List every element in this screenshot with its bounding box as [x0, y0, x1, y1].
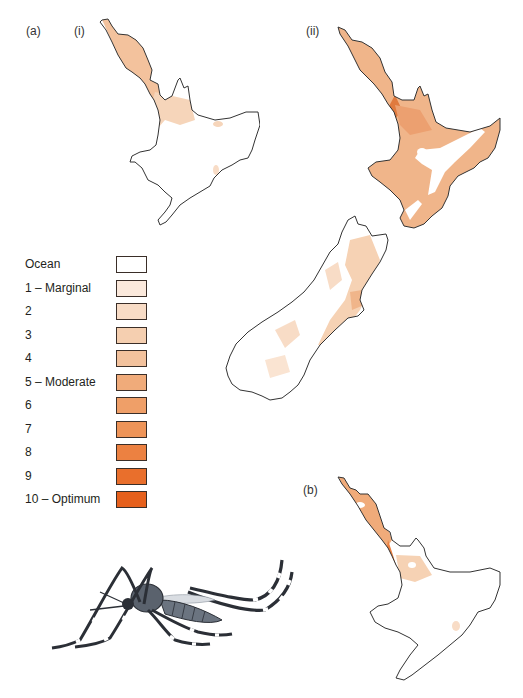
legend-item-4: 4 [25, 348, 155, 372]
figure-caption-cutoff [0, 690, 523, 698]
legend-label: 9 [25, 469, 32, 483]
legend-item-9: 9 [25, 466, 155, 490]
legend-swatch [116, 444, 147, 461]
legend-swatch [116, 327, 147, 344]
legend-swatch [116, 350, 147, 367]
legend-item-3: 3 [25, 325, 155, 349]
legend-label: 5 – Moderate [25, 375, 96, 389]
legend-label: 1 – Marginal [25, 281, 91, 295]
legend-label: 10 – Optimum [25, 492, 100, 506]
legend-label: 7 [25, 422, 32, 436]
legend-swatch [116, 303, 147, 320]
legend-item-7: 7 [25, 419, 155, 443]
legend-label: 3 [25, 328, 32, 342]
legend-item-5: 5 – Moderate [25, 372, 155, 396]
legend-label: 6 [25, 398, 32, 412]
legend-swatch [116, 421, 147, 438]
suitability-legend: Ocean 1 – Marginal 2 3 4 5 – Moderate 6 … [25, 254, 155, 513]
legend-swatch [116, 280, 147, 297]
legend-item-10: 10 – Optimum [25, 489, 155, 513]
legend-swatch [116, 491, 147, 508]
legend-label: Ocean [25, 257, 60, 271]
legend-swatch [116, 256, 147, 273]
legend-swatch [116, 374, 147, 391]
legend-item-8: 8 [25, 442, 155, 466]
legend-item-6: 6 [25, 395, 155, 419]
legend-label: 8 [25, 445, 32, 459]
legend-item-2: 2 [25, 301, 155, 325]
legend-swatch [116, 397, 147, 414]
legend-label: 4 [25, 351, 32, 365]
mosquito-illustration [40, 540, 310, 660]
legend-item-ocean: Ocean [25, 254, 155, 278]
legend-label: 2 [25, 304, 32, 318]
legend-swatch [116, 468, 147, 485]
legend-item-1: 1 – Marginal [25, 278, 155, 302]
